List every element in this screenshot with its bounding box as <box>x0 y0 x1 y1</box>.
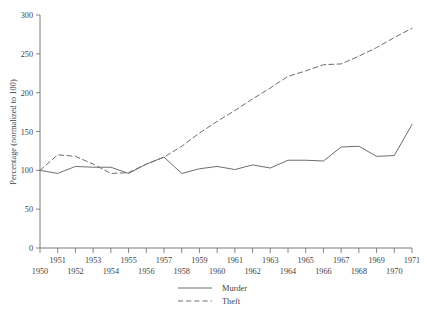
x-axis-ticks <box>40 248 412 253</box>
legend-label-theft: Theft <box>222 297 241 306</box>
x-tick-label: 1955 <box>120 256 136 265</box>
x-axis-tick-labels-lower: 1950195219541956195819601962196419661968… <box>32 267 403 276</box>
x-tick-label: 1953 <box>85 256 101 265</box>
y-tick-label: 200 <box>21 89 33 98</box>
x-tick-label: 1969 <box>368 256 384 265</box>
y-tick-label: 300 <box>21 11 33 20</box>
x-tick-label: 1960 <box>209 267 225 276</box>
series-line-theft <box>40 28 412 173</box>
x-axis-tick-labels-upper: 1951195319551957195919611963196519671969… <box>50 256 421 265</box>
x-tick-label: 1956 <box>138 267 154 276</box>
y-tick-label: 0 <box>29 244 33 253</box>
x-tick-label: 1961 <box>227 256 243 265</box>
y-tick-label: 250 <box>21 50 33 59</box>
y-axis-ticks: 050100150200250300 <box>21 11 40 253</box>
series-lines <box>40 28 412 173</box>
x-tick-label: 1951 <box>50 256 66 265</box>
chart-container: Percentage (normalized to 100) 050100150… <box>0 0 427 317</box>
y-tick-label: 50 <box>25 205 33 214</box>
y-tick-label: 150 <box>21 128 33 137</box>
x-tick-label: 1954 <box>103 267 119 276</box>
line-chart: Percentage (normalized to 100) 050100150… <box>0 0 427 317</box>
x-tick-label: 1970 <box>386 267 402 276</box>
x-tick-label: 1950 <box>32 267 48 276</box>
x-tick-label: 1967 <box>333 256 349 265</box>
x-tick-label: 1963 <box>262 256 278 265</box>
x-tick-label: 1959 <box>191 256 207 265</box>
chart-legend: Murder Theft <box>178 284 247 306</box>
series-line-murder <box>40 125 412 174</box>
x-tick-label: 1958 <box>174 267 190 276</box>
x-tick-label: 1965 <box>298 256 314 265</box>
axes <box>40 15 412 248</box>
x-tick-label: 1957 <box>156 256 172 265</box>
x-tick-label: 1964 <box>280 267 296 276</box>
x-tick-label: 1966 <box>315 267 331 276</box>
x-tick-label: 1971 <box>404 256 420 265</box>
y-axis-title-label: Percentage (normalized to 100) <box>9 79 18 185</box>
y-tick-label: 100 <box>21 166 33 175</box>
x-tick-label: 1952 <box>67 267 83 276</box>
x-tick-label: 1962 <box>244 267 260 276</box>
y-axis-title: Percentage (normalized to 100) <box>9 79 18 185</box>
legend-label-murder: Murder <box>222 284 247 293</box>
x-tick-label: 1968 <box>351 267 367 276</box>
